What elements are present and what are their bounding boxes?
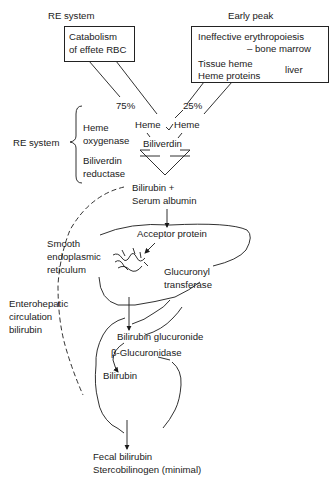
ser-line3: reticulum	[47, 264, 86, 276]
heme-proteins: Heme proteins	[198, 70, 260, 82]
ser-line1: Smooth	[47, 238, 80, 250]
funnel	[140, 150, 190, 175]
fecal-bilirubin: Fecal bilirubin	[93, 451, 152, 463]
enterohepatic-2: circulation	[9, 311, 52, 323]
ineffective-erythropoiesis: Ineffective erythropoiesis	[198, 31, 304, 43]
serum-albumin: Serum albumin	[132, 195, 197, 207]
re-system-side-label: RE system	[13, 137, 59, 149]
heme-oxygenase-2: oxygenase	[83, 135, 129, 147]
line-early-heme	[204, 82, 232, 114]
bilirubin-glucuronide: Bilirubin glucuronide	[117, 331, 203, 343]
bilirubin-intestine: Bilirubin	[103, 370, 137, 382]
bilirubin-plus: Bilirubin +	[132, 182, 174, 194]
line-catabolism-75	[89, 61, 120, 97]
glucuronyl: Glucuronyl	[164, 266, 210, 278]
re-system-brace	[70, 106, 82, 183]
biliverdin-reductase-1: Biliverdin	[83, 155, 122, 167]
stercobilinogen: Stercobilinogen (minimal)	[93, 464, 201, 476]
pct-25: 25%	[183, 100, 202, 112]
header-re-system: RE system	[48, 10, 94, 22]
tissue-heme: Tissue heme	[198, 58, 253, 70]
biliverdin-label: Biliverdin	[143, 138, 182, 150]
heme-right: Heme	[174, 119, 200, 131]
acceptor-protein: Acceptor protein	[137, 228, 207, 240]
bone-marrow: – bone marrow	[247, 43, 311, 55]
enterohepatic-1: Enterohepatic	[9, 298, 68, 310]
heme-oxygenase-1: Heme	[83, 122, 109, 134]
ser-line2: endoplasmic	[47, 251, 101, 263]
header-early-peak: Early peak	[228, 10, 273, 22]
early-sources-box: Ineffective erythropoiesis – bone marrow…	[191, 26, 329, 83]
biliverdin-reductase-2: reductase	[83, 168, 125, 180]
liver-label: liver	[285, 64, 303, 76]
catabolism-line1: Catabolism	[69, 31, 117, 43]
check-mark	[166, 124, 173, 130]
heme-left: Heme	[135, 119, 161, 131]
ser-squiggle	[113, 248, 148, 271]
pct-75: 75%	[116, 100, 135, 112]
catabolism-line2: of effete RBC	[69, 44, 126, 56]
catabolism-box: Catabolism of effete RBC	[64, 26, 135, 62]
enterohepatic-3: bilirubin	[9, 324, 42, 336]
transferase: transferase	[164, 279, 212, 291]
beta-glucuronidase: β-Glucuronidase	[111, 347, 182, 359]
